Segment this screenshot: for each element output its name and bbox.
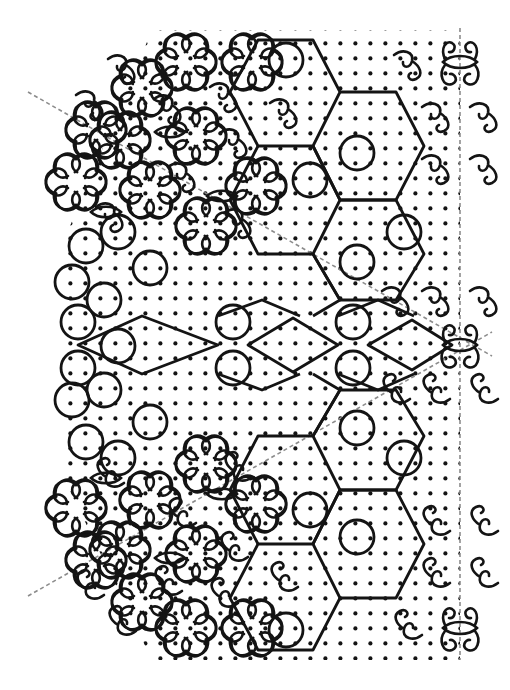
kolam-drawing: Kolam dot-grid line drawing A symmetric … <box>0 0 510 690</box>
kolam-figure-root: Kolam dot-grid line drawing A symmetric … <box>0 0 510 690</box>
